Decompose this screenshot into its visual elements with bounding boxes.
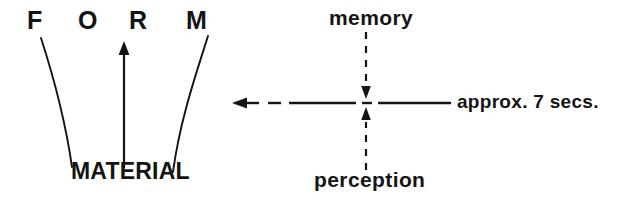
time-axis [232,98,451,109]
form-left-curve [41,38,72,167]
perception-label: perception [314,169,425,190]
form-center-arrow [119,41,130,168]
memory-label: memory [329,7,413,28]
perception-axis [361,107,371,170]
form-right-curve [173,36,208,172]
material-label: MATERIAL [71,160,190,183]
diagram-figure: F O R M MATERIAL memory perception appro… [0,0,625,202]
memory-axis [361,32,371,99]
form-letter-f: F [27,8,42,33]
form-letter-o: O [78,8,97,33]
form-letter-m: M [186,8,207,33]
form-letter-r: R [129,8,147,33]
duration-label: approx. 7 secs. [457,92,599,111]
